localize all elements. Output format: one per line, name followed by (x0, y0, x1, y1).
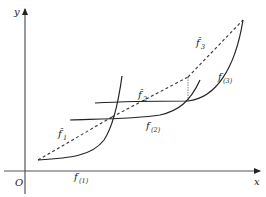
label-f2: f (2) (145, 120, 161, 134)
svg-text:1: 1 (63, 134, 67, 142)
curve-f2 (70, 80, 200, 120)
x-axis-label: x (254, 176, 260, 187)
label-fhat1: f̂ 1 (57, 128, 67, 142)
label-fhat3: f̂ 3 (195, 37, 205, 51)
secant-fhat1 (38, 117, 112, 160)
diagram-canvas: y O x f (1) f (2) f (3) f̂ 1 f̂ 2 f̂ 3 (0, 0, 266, 197)
secant-fhat2 (112, 77, 188, 117)
y-axis-label: y (13, 6, 20, 17)
svg-text:(3): (3) (223, 77, 233, 85)
label-f1: f (1) (73, 171, 89, 185)
origin-label: O (15, 177, 23, 188)
svg-text:2: 2 (142, 95, 147, 103)
svg-text:(2): (2) (151, 126, 161, 134)
svg-text:3: 3 (201, 43, 205, 51)
svg-text:(1): (1) (79, 177, 89, 185)
curve-f3 (95, 20, 243, 103)
secant-fhat3 (188, 20, 243, 77)
